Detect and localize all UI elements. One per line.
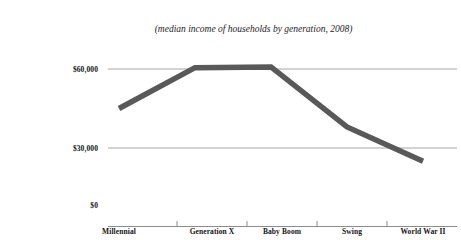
y-axis-label-0: $0 bbox=[40, 201, 98, 210]
y-axis-label-60000: $60,000 bbox=[40, 65, 98, 74]
x-axis-label-millennial: Millennial bbox=[84, 227, 154, 236]
chart-plot-svg bbox=[40, 16, 461, 240]
y-axis-label-30000: $30,000 bbox=[40, 144, 98, 153]
plot-area: $60,000 $30,000 $0 Millennial Generation… bbox=[40, 16, 461, 240]
x-axis-label-baby-boom: Baby Boom bbox=[247, 227, 317, 236]
x-axis-label-generation-x: Generation X bbox=[177, 227, 247, 236]
x-axis-label-swing: Swing bbox=[317, 227, 387, 236]
x-axis-label-world-war-ii: World War II bbox=[388, 227, 458, 236]
data-series-line bbox=[119, 67, 423, 161]
chart-figure: (median income of households by generati… bbox=[40, 16, 461, 240]
